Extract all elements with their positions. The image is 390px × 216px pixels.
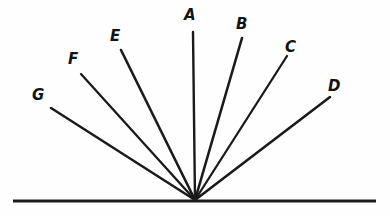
rays-group — [51, 32, 330, 200]
ray-a — [193, 32, 195, 200]
ray-label-f: F — [68, 52, 78, 67]
ray-diagram-canvas — [0, 0, 390, 216]
ray-b — [195, 38, 242, 200]
ray-label-b: B — [236, 17, 247, 32]
ray-label-g: G — [32, 88, 44, 103]
ray-d — [195, 97, 330, 200]
ray-label-e: E — [110, 29, 120, 44]
ray-label-a: A — [184, 8, 196, 23]
ray-label-d: D — [328, 79, 340, 94]
ray-diagram-figure: ABCDEFG — [0, 0, 390, 216]
ray-c — [195, 56, 287, 200]
ray-label-c: C — [285, 40, 296, 55]
